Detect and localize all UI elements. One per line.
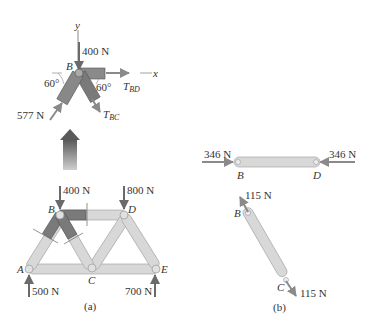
joint-c-label: C <box>88 274 96 286</box>
y-axis-label: y <box>74 19 80 31</box>
x-axis-label: x <box>152 67 158 79</box>
force-577n-arrow <box>50 103 62 120</box>
angle-left-label: 60° <box>44 77 59 89</box>
tension-bc-label: TBC <box>103 108 120 122</box>
truss: B D A C E 400 N 800 N 500 N 700 N (a) <box>16 184 168 313</box>
force-bd-right-label: 346 N <box>329 148 356 160</box>
pin-e <box>152 265 160 273</box>
angle-right-label: 60° <box>96 81 111 93</box>
force-bc-top-label: 115 N <box>245 189 272 201</box>
load-label-400n: 400 N <box>82 45 109 57</box>
member-bd-free-body: 346 N 346 N B D <box>202 148 356 181</box>
pin-a <box>25 265 33 273</box>
load-b-label: 400 N <box>63 184 90 196</box>
reaction-a-label: 500 N <box>32 285 59 297</box>
member-de <box>120 212 161 270</box>
pin-b-isolated <box>236 160 241 165</box>
end-b-bc-label: B <box>234 207 241 219</box>
joint-a-label: A <box>16 263 24 275</box>
force-bc-bottom-label: 115 N <box>300 287 327 299</box>
reaction-e-label: 700 N <box>125 285 152 297</box>
load-d-label: 800 N <box>127 184 154 196</box>
pin-b <box>75 69 83 77</box>
end-b-label: B <box>237 169 244 181</box>
joint-d-label: D <box>127 203 136 215</box>
member-bc-isolated <box>241 206 289 279</box>
pin-b-truss <box>56 211 64 219</box>
end-d-label: D <box>312 169 321 181</box>
joint-e-label: E <box>160 263 168 275</box>
force-bc-bottom-arrow <box>286 281 296 296</box>
force-577n-label: 577 N <box>17 109 44 121</box>
end-c-bc-label: C <box>277 281 285 293</box>
joint-b-truss-label: B <box>48 203 55 215</box>
member-bc-free-body: 115 N 115 N B C (b) <box>234 189 327 314</box>
tension-bc-arrow <box>92 99 100 112</box>
pin-c <box>88 264 96 272</box>
truss-diagram: y x 400 N B 60° 60° TBD TBC 577 N <box>0 0 375 328</box>
joint-b-free-body-diagram: y x 400 N B 60° 60° TBD TBC 577 N <box>17 19 158 122</box>
joint-b-label: B <box>66 60 73 72</box>
pin-d-isolated <box>314 160 319 165</box>
caption-b: (b) <box>273 301 286 314</box>
pin-d <box>120 211 128 219</box>
force-bd-left-label: 346 N <box>204 148 231 160</box>
tension-bd-label: TBD <box>123 80 140 94</box>
extraction-arrow-icon <box>60 129 80 170</box>
member-bd-isolated <box>234 157 320 167</box>
caption-a: (a) <box>84 300 97 313</box>
